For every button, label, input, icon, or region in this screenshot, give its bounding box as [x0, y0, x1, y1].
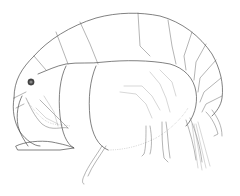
- amphipod-illustration: [0, 0, 240, 196]
- amphipod-drawing: [0, 0, 240, 196]
- pereopods: [83, 70, 177, 184]
- gnathopods: [16, 96, 74, 150]
- eye: [28, 79, 34, 85]
